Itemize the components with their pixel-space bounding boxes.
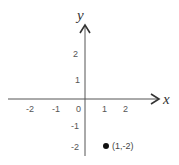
x-axis-label: x xyxy=(162,91,170,107)
y-axis-label: y xyxy=(75,7,84,23)
y-tick-label: 2 xyxy=(73,49,78,59)
y-tick-label: -1 xyxy=(71,121,79,131)
x-tick-label: 2 xyxy=(123,104,128,114)
x-tick-label: 1 xyxy=(102,104,107,114)
data-point xyxy=(103,143,109,149)
data-point-label: (1,-2) xyxy=(112,141,134,151)
x-tick-label: -2 xyxy=(26,104,34,114)
y-tick-label: 1 xyxy=(75,75,80,85)
y-tick-label: -2 xyxy=(71,142,79,152)
x-tick-label: 0 xyxy=(76,104,81,114)
coordinate-plane: x y -2 -1 0 1 2 2 1 -1 -2 (1,-2) xyxy=(0,0,179,165)
x-tick-label: -1 xyxy=(52,104,60,114)
